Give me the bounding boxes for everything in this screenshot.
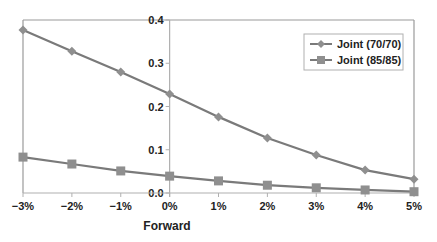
diamond-marker-icon [165,89,174,98]
x-tick-label: −2% [61,200,84,212]
square-marker-icon [67,160,76,169]
line-chart: 0.00.10.20.30.4 −3%−2%−1%0%1%2%3%4%5% Jo… [0,0,437,242]
x-tick-label: 4% [357,200,373,212]
diamond-marker-icon [312,150,321,159]
legend-label: Joint (85/85) [337,54,402,66]
square-marker-icon [263,181,272,190]
diamond-marker-icon [263,134,272,143]
x-tick-label: 2% [259,200,275,212]
x-tick-label: 1% [211,200,227,212]
square-marker-icon [317,56,325,64]
square-marker-icon [361,185,370,194]
x-tick-label: 0% [162,200,178,212]
x-tick-label: −1% [110,200,133,212]
diamond-marker-icon [116,67,125,76]
diamond-marker-icon [67,47,76,56]
square-marker-icon [312,183,321,192]
square-marker-icon [165,172,174,181]
diamond-marker-icon [19,25,28,34]
square-marker-icon [214,176,223,185]
y-tick-label: 0.1 [148,144,163,156]
legend: Joint (70/70) Joint (85/85) [304,34,403,70]
x-tick-label: 3% [308,200,324,212]
x-tick-label: 5% [406,200,422,212]
x-axis-title: Forward [143,219,190,233]
series-2 [19,153,419,197]
diamond-marker-icon [361,166,370,175]
square-marker-icon [116,166,125,175]
x-tick-label: −3% [12,200,35,212]
diamond-marker-icon [214,112,223,121]
series-line [23,157,414,192]
legend-label: Joint (70/70) [337,38,402,50]
y-tick-label: 0.3 [148,57,163,69]
square-marker-icon [410,187,419,196]
x-axis: −3%−2%−1%0%1%2%3%4%5% [12,193,422,212]
y-tick-label: 0.4 [148,14,164,26]
y-tick-label: 0.2 [148,101,163,113]
y-axis: 0.00.10.20.30.4 [148,14,169,199]
diamond-marker-icon [410,175,419,184]
square-marker-icon [19,153,28,162]
